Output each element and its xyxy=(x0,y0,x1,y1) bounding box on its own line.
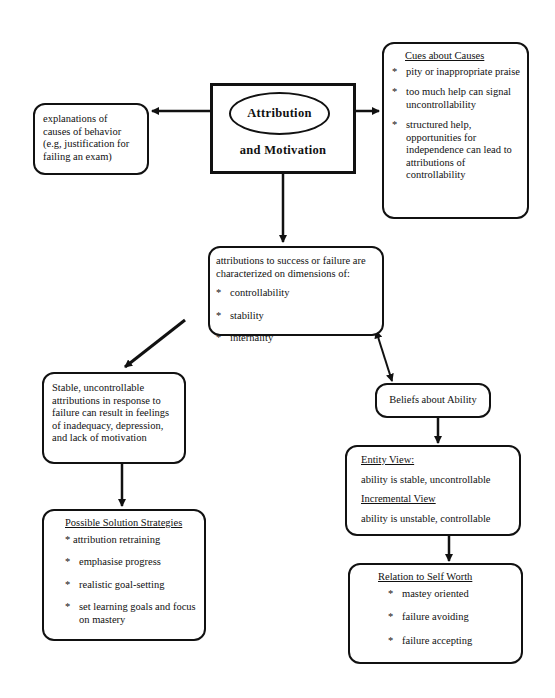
bullet-icon: * xyxy=(392,66,406,79)
ability-views-box: Entity View: ability is stable, uncontro… xyxy=(345,445,521,536)
bullet-icon: * xyxy=(388,611,402,624)
bullet-icon: * xyxy=(388,588,402,601)
solutions-heading: Possible Solution Strategies xyxy=(65,517,196,530)
bullet-icon: * xyxy=(65,601,79,626)
dimension-item: * internality xyxy=(216,332,376,345)
explanations-line: failing an exam) xyxy=(43,151,139,164)
bullet-icon: * xyxy=(392,86,406,111)
cues-heading: Cues about Causes xyxy=(405,50,521,63)
explanations-line: explanations of xyxy=(43,113,139,126)
self-worth-heading: Relation to Self Worth xyxy=(378,571,513,584)
bullet-icon: * xyxy=(388,635,402,648)
cues-item: * pity or inappropriate praise xyxy=(392,66,521,79)
central-title-line1: Attribution xyxy=(247,106,311,121)
cues-item: * too much help can signal uncontrollabi… xyxy=(392,86,521,111)
cues-about-causes-box: Cues about Causes * pity or inappropriat… xyxy=(382,42,529,219)
self-worth-box: Relation to Self Worth * mastey oriented… xyxy=(348,563,523,664)
solution-item: * set learning goals and focus on master… xyxy=(65,601,196,626)
bullet-icon: * xyxy=(65,556,79,569)
self-worth-item: * failure accepting xyxy=(388,635,513,648)
cues-item: * structured help, opportunities for ind… xyxy=(392,119,521,182)
self-worth-item: * mastey oriented xyxy=(388,588,513,601)
bullet-icon: * xyxy=(216,287,230,300)
dimension-item: * controllability xyxy=(216,287,376,300)
solution-item: * realistic goal-setting xyxy=(65,579,196,592)
dimensions-intro: attributions to success or failure are c… xyxy=(216,255,376,280)
self-worth-item: * failure avoiding xyxy=(388,611,513,624)
explanations-box: explanations of causes of behavior (e.g,… xyxy=(33,103,149,175)
bullet-icon: * xyxy=(216,332,230,345)
entity-view-heading: Entity View: xyxy=(361,453,505,466)
bullet-icon: * xyxy=(65,534,73,547)
stable-attributions-box: Stable, uncontrollable attributions in r… xyxy=(42,372,186,464)
bullet-icon: * xyxy=(65,579,79,592)
entity-view-text: ability is stable, uncontrollable xyxy=(361,473,505,486)
central-title-line2: and Motivation xyxy=(213,144,353,157)
beliefs-label: Beliefs about Ability xyxy=(389,394,477,407)
solution-item: * emphasise progress xyxy=(65,556,196,569)
solution-strategies-box: Possible Solution Strategies * attributi… xyxy=(42,509,206,641)
central-title-ellipse: Attribution xyxy=(229,92,330,135)
incremental-view-heading: Incremental View xyxy=(361,492,505,505)
stable-attributions-text: Stable, uncontrollable attributions in r… xyxy=(52,382,176,445)
incremental-view-text: ability is unstable, controllable xyxy=(361,512,505,525)
bullet-icon: * xyxy=(216,310,230,323)
explanations-line: causes of behavior xyxy=(43,126,139,139)
solution-item: * attribution retraining xyxy=(65,534,196,547)
bullet-icon: * xyxy=(392,119,406,182)
beliefs-about-ability-box: Beliefs about Ability xyxy=(375,383,491,418)
dimensions-box: attributions to success or failure are c… xyxy=(208,246,384,336)
explanations-line: (e.g, justification for xyxy=(43,138,139,151)
dimension-item: * stability xyxy=(216,310,376,323)
